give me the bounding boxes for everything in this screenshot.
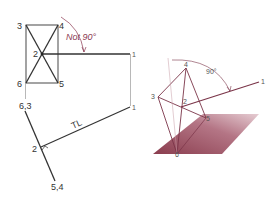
angle-annotation-not-90: Not 90°	[66, 32, 97, 42]
angle-arrowhead	[82, 47, 86, 52]
label-point-4: 4	[59, 21, 64, 31]
label-point-3: 3	[17, 21, 22, 31]
left-edge-view: 6,3 2 1 5,4 TL	[19, 101, 136, 192]
angle-arc-90	[172, 60, 230, 91]
label-point-5-4: 5,4	[51, 182, 64, 192]
label-point-6-right: 6	[175, 151, 179, 158]
label-point-2-top: 2	[33, 49, 38, 59]
angle-annotation-90: 90°	[206, 68, 217, 75]
label-point-5: 5	[59, 79, 64, 89]
point-2-top	[41, 53, 44, 56]
label-point-3-right: 3	[151, 93, 155, 100]
label-point-2-right: 2	[183, 98, 187, 105]
label-point-5-right: 5	[206, 115, 210, 122]
diagram-canvas: 3 4 2 6 5 1 Not 90° 6,3 2 1 5,4 TL 4 3 2…	[0, 0, 280, 203]
label-point-1-top: 1	[132, 51, 136, 58]
label-point-1-bottom: 1	[132, 104, 136, 111]
label-point-4-right: 4	[184, 61, 188, 68]
label-point-2-bottom: 2	[32, 144, 37, 154]
label-point-6-3: 6,3	[19, 101, 32, 111]
true-length-line	[41, 107, 130, 147]
left-front-view: 3 4 2 6 5 1 Not 90°	[17, 17, 136, 106]
label-point-6: 6	[17, 79, 22, 89]
label-point-1-right: 1	[261, 78, 265, 85]
edge-view-line	[25, 111, 55, 181]
right-pictorial-view: 4 3 2 5 6 1 90°	[151, 58, 265, 158]
edge-4-3	[158, 68, 186, 97]
